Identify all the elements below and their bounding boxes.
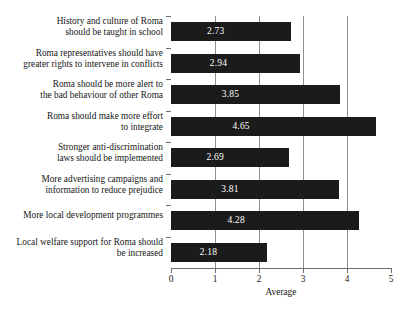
x-tick-label: 4 (337, 274, 357, 284)
bar (171, 180, 339, 199)
category-label-line: Roma should make more effort (0, 111, 163, 122)
bar-row: 2.69Stronger anti-discriminationlaws sho… (0, 142, 408, 174)
bar-value-label: 4.28 (227, 211, 244, 230)
x-tick (171, 268, 172, 273)
bar-row: 4.65Roma should make more effortto integ… (0, 111, 408, 143)
bar-row: 3.85Roma should be more alert tothe bad … (0, 79, 408, 111)
bar (171, 148, 289, 167)
bar (171, 22, 291, 41)
category-label-line: information to reduce prejudice (0, 185, 163, 196)
bar-row: 3.81More advertising campaigns andinform… (0, 174, 408, 206)
x-tick-label: 3 (293, 274, 313, 284)
x-tick-label: 1 (205, 274, 225, 284)
x-tick (347, 268, 348, 273)
bar-row: 2.94Roma representatives should havegrea… (0, 48, 408, 80)
bar-value-label: 3.81 (221, 180, 238, 199)
category-label: More local development programmes (0, 205, 163, 221)
figure-caption (14, 308, 394, 315)
category-label: History and culture of Romashould be tau… (0, 16, 163, 39)
category-label-line: be increased (0, 248, 163, 259)
category-label: More advertising campaigns andinformatio… (0, 174, 163, 197)
bar-chart-figure: 2.73History and culture of Romashould be… (0, 0, 408, 315)
x-tick-label: 5 (381, 274, 401, 284)
x-tick (215, 268, 216, 273)
bar-value-label: 4.65 (232, 117, 249, 136)
category-label-line: the bad behaviour of other Roma (0, 90, 163, 101)
x-tick (391, 268, 392, 273)
x-tick (259, 268, 260, 273)
x-tick-label: 0 (161, 274, 181, 284)
category-label-line: to integrate (0, 122, 163, 133)
category-label-line: greater rights to intervene in conflicts (0, 59, 163, 70)
category-label-line: More advertising campaigns and (0, 174, 163, 185)
category-label: Roma representatives should havegreater … (0, 48, 163, 71)
category-label-line: Roma should be more alert to (0, 79, 163, 90)
bar-value-label: 2.73 (207, 22, 224, 41)
bar (171, 211, 359, 230)
category-label-line: History and culture of Roma (0, 16, 163, 27)
category-label-line: laws should be implemented (0, 153, 163, 164)
category-label-line: Stronger anti-discrimination (0, 142, 163, 153)
category-label: Local welfare support for Roma shouldbe … (0, 237, 163, 260)
bar (171, 85, 340, 104)
category-label-line: should be taught in school (0, 27, 163, 38)
x-axis-line (171, 268, 391, 269)
bar-row: 2.18Local welfare support for Roma shoul… (0, 237, 408, 269)
bar (171, 243, 267, 262)
category-label-line: Local welfare support for Roma should (0, 237, 163, 248)
category-label: Stronger anti-discriminationlaws should … (0, 142, 163, 165)
bar-row: 2.73History and culture of Romashould be… (0, 16, 408, 48)
bar (171, 117, 376, 136)
bar-value-label: 2.94 (210, 54, 227, 73)
category-label-line: Roma representatives should have (0, 48, 163, 59)
x-axis-title: Average (171, 287, 391, 297)
bar-value-label: 2.18 (200, 243, 217, 262)
category-label: Roma should be more alert tothe bad beha… (0, 79, 163, 102)
bar-value-label: 3.85 (222, 85, 239, 104)
category-label-line: More local development programmes (0, 210, 163, 221)
x-tick (303, 268, 304, 273)
bar-value-label: 2.69 (207, 148, 224, 167)
bar (171, 54, 300, 73)
category-label: Roma should make more effortto integrate (0, 111, 163, 134)
x-tick-label: 2 (249, 274, 269, 284)
bar-row: 4.28More local development programmes (0, 205, 408, 237)
